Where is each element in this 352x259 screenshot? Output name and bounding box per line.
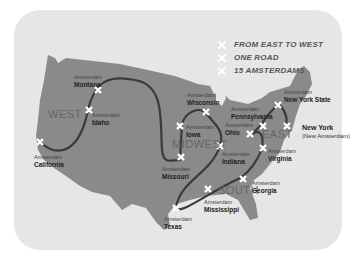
place-label-idaho: AmsterdamIdaho (92, 112, 120, 126)
legend-label: ONE ROAD (234, 53, 279, 62)
place-label-ohio: AmsterdamOhio (225, 122, 253, 136)
legend: FROM EAST TO WEST ONE ROAD 15 AMSTERDAMS (218, 38, 323, 77)
place-label-virginia: AmsterdamVirginia (268, 148, 296, 162)
x-marker-icon (218, 41, 226, 49)
legend-label: FROM EAST TO WEST (234, 40, 323, 49)
place-label-wisconsin: AmsterdamWisconsin (187, 92, 219, 106)
region-label-west: WEST (48, 108, 82, 120)
x-marker-icon (218, 67, 226, 75)
legend-item: 15 AMSTERDAMS (218, 64, 323, 77)
place-label-california: AmsterdamCalifornia (34, 154, 64, 168)
legend-item: FROM EAST TO WEST (218, 38, 323, 51)
x-marker-icon (218, 54, 226, 62)
place-label-texas: AmsterdamTexas (164, 216, 192, 230)
place-label-missouri: AmsterdamMissouri (162, 166, 190, 180)
region-label-east: EAST (262, 128, 293, 140)
place-label-mississippi: AmsterdamMississippi (204, 199, 239, 213)
new-york-subtitle: (New Amsterdam) (302, 132, 350, 140)
place-label-pennsylvania: AmsterdamPennsylvania (231, 106, 273, 120)
place-label-iowa: AmsterdamIowa (186, 124, 214, 138)
region-label-midwest: MIDWEST (172, 138, 227, 150)
place-label-georgia: AmsterdamGeorgia (252, 180, 280, 194)
place-label-indiana: AmsterdamIndiana (222, 151, 250, 165)
legend-item: ONE ROAD (218, 51, 323, 64)
place-label-new-york: New York (New Amsterdam) (302, 124, 350, 140)
place-label-montana: AmsterdamMontana (74, 74, 102, 88)
legend-label: 15 AMSTERDAMS (234, 66, 305, 75)
place-label-new-york-state: AmsterdamNew York State (284, 89, 331, 103)
new-york-name: New York (302, 124, 350, 132)
